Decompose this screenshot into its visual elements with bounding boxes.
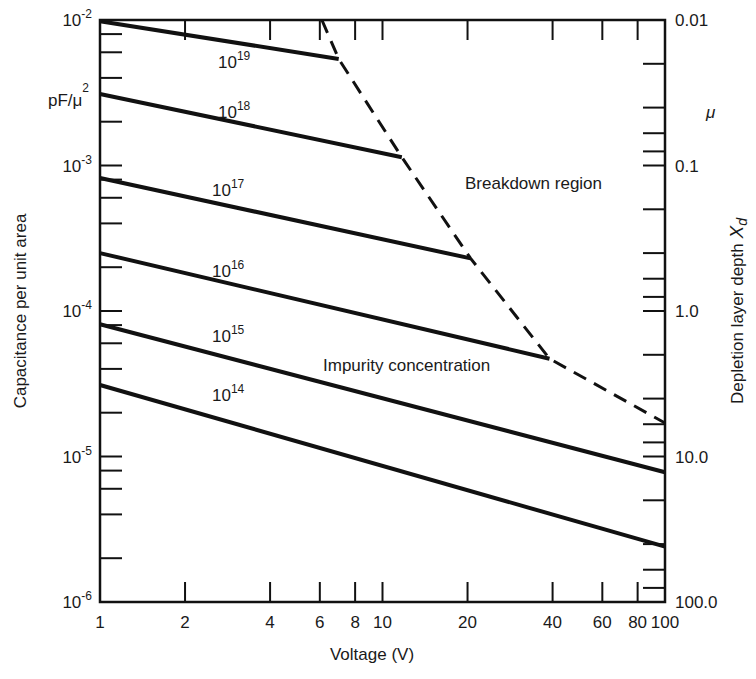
y-axis-title: Capacitance per unit area xyxy=(11,213,30,408)
y2-tick-label: 0.1 xyxy=(675,157,699,176)
annotation-breakdown-region: Breakdown region xyxy=(465,174,602,193)
x-tick-label: 8 xyxy=(350,613,359,632)
y2-tick-label: 10.0 xyxy=(675,448,708,467)
series-label: 1017 xyxy=(212,177,245,200)
x-tick-label: 100 xyxy=(651,613,679,632)
series-label: 1019 xyxy=(218,49,251,72)
x-tick-label: 4 xyxy=(265,613,274,632)
x-tick-label: 20 xyxy=(458,613,477,632)
y-tick-label: 10-4 xyxy=(62,298,92,321)
y2-axis-title: Depletion layer depth Xd xyxy=(726,217,750,404)
series-lines xyxy=(100,20,665,547)
x-tick-label: 1 xyxy=(95,613,104,632)
impurity-line xyxy=(100,324,665,472)
x-tick-label: 2 xyxy=(180,613,189,632)
series-label: 1016 xyxy=(212,258,245,281)
chart-canvas: 12468102040608010010-210-310-410-510-60.… xyxy=(0,0,756,679)
x-tick-label: 60 xyxy=(593,613,612,632)
y-tick-label: 10-5 xyxy=(62,444,92,467)
series-label: 1018 xyxy=(218,99,251,122)
x-tick-label: 40 xyxy=(543,613,562,632)
y-tick-label: 10-2 xyxy=(62,7,92,30)
y2-tick-label: 100.0 xyxy=(675,593,718,612)
y2-axis-units: μ xyxy=(705,103,716,122)
y2-tick-label: 0.01 xyxy=(675,11,708,30)
x-tick-label: 80 xyxy=(628,613,647,632)
plot-frame xyxy=(100,20,665,602)
axis-ticks xyxy=(100,20,665,602)
series-label: 1015 xyxy=(212,323,245,346)
series-label: 1014 xyxy=(212,382,245,405)
annotation-impurity-concentration: Impurity concentration xyxy=(323,356,490,375)
x-tick-label: 10 xyxy=(373,613,392,632)
impurity-line xyxy=(100,94,402,157)
y-axis-units: pF/μ2 xyxy=(48,81,89,110)
impurity-line xyxy=(100,178,471,258)
y-tick-label: 10-6 xyxy=(62,589,92,612)
x-axis-title: Voltage (V) xyxy=(330,645,414,664)
impurity-line xyxy=(100,385,665,547)
y2-tick-label: 1.0 xyxy=(675,302,699,321)
y-tick-label: 10-3 xyxy=(62,153,92,176)
x-tick-label: 6 xyxy=(315,613,324,632)
